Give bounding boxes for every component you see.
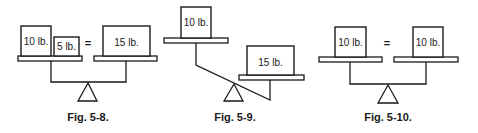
weight-label: 10 lb. bbox=[24, 36, 48, 47]
right-platform bbox=[394, 57, 458, 62]
fulcrum-triangle-icon bbox=[378, 85, 398, 103]
figure-5-8: 10 lb. 5 lb. = 15 lb. Fig. 5-8. bbox=[18, 26, 157, 123]
beam bbox=[51, 60, 126, 82]
weight-label: 10 lb. bbox=[416, 37, 440, 48]
equals-sign: = bbox=[384, 37, 390, 49]
weight-label: 10 lb. bbox=[338, 37, 362, 48]
weight-label: 10 lb. bbox=[184, 17, 208, 28]
figure-caption: Fig. 5-8. bbox=[67, 111, 109, 123]
figure-caption: Fig. 5-10. bbox=[364, 111, 412, 123]
upper-platform bbox=[164, 38, 228, 43]
figure-5-10: 10 lb. = 10 lb. Fig. 5-10. bbox=[319, 27, 458, 123]
left-platform bbox=[18, 56, 82, 61]
fulcrum-triangle-icon bbox=[78, 83, 97, 101]
weight-label: 15 lb. bbox=[114, 37, 138, 48]
equals-sign: = bbox=[85, 37, 91, 49]
left-platform bbox=[319, 57, 382, 62]
right-platform bbox=[94, 56, 157, 61]
beam bbox=[350, 62, 426, 84]
figure-5-9: 10 lb. 15 lb. Fig. 5-9. bbox=[164, 7, 304, 123]
lower-platform bbox=[239, 75, 304, 80]
weight-label: 15 lb. bbox=[258, 57, 282, 68]
balance-scale-diagrams: 10 lb. 5 lb. = 15 lb. Fig. 5-8. 10 lb. 1… bbox=[0, 0, 478, 133]
weight-label: 5 lb. bbox=[57, 41, 76, 52]
figure-caption: Fig. 5-9. bbox=[214, 111, 256, 123]
